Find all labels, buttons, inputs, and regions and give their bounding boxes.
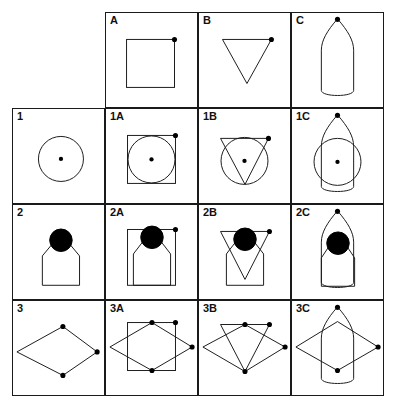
vertex-dot-apex — [335, 17, 340, 22]
vertex-dot-bottom — [335, 368, 340, 373]
rhombus-shape — [296, 322, 378, 371]
bullet-shape — [321, 19, 353, 96]
filled-ball-shape — [141, 226, 164, 249]
vertex-dot-bottom — [242, 369, 247, 374]
filled-ball-shape — [327, 232, 350, 255]
cell-3[interactable]: 3 — [12, 300, 105, 396]
vertex-dot-top-right — [173, 133, 178, 138]
cell-c[interactable]: C — [291, 12, 384, 108]
vertex-dot-apex — [335, 209, 340, 214]
vertex-dot-top-right — [269, 37, 274, 42]
vertex-dot-top-right — [173, 227, 178, 232]
cell-3c[interactable]: 3C — [291, 300, 384, 396]
cell-1b[interactable]: 1B — [198, 108, 291, 204]
vertex-dot-bottom — [60, 373, 65, 378]
inverted-triangle-shape — [222, 39, 271, 83]
inverted-triangle-shape — [221, 325, 270, 372]
vertex-dot-apex — [335, 113, 340, 118]
cell-empty-corner — [12, 12, 105, 108]
filled-ball-shape — [234, 228, 257, 251]
cell-2a[interactable]: 2A — [105, 204, 198, 300]
bullet-shape — [321, 115, 353, 192]
rhombus-shape — [203, 325, 285, 372]
vertex-dot-top-right — [266, 136, 271, 141]
vertex-dot-right — [376, 344, 381, 349]
center-dot — [335, 160, 339, 164]
square-shape — [128, 323, 176, 371]
center-dot — [149, 157, 153, 161]
vertex-dot-triangle-top-right — [267, 322, 272, 327]
square-shape — [127, 39, 175, 87]
cell-3a[interactable]: 3A — [105, 300, 198, 396]
vertex-dot-right — [95, 349, 100, 354]
cell-a[interactable]: A — [105, 12, 198, 108]
vertex-dot-top-right — [267, 229, 272, 234]
vertex-dot-right — [283, 344, 288, 349]
vertex-dot-top — [242, 322, 247, 327]
cell-2b[interactable]: 2B — [198, 204, 291, 300]
rhombus-shape — [110, 323, 192, 371]
center-dot — [59, 157, 63, 161]
cell-b[interactable]: B — [198, 12, 291, 108]
center-dot — [242, 159, 246, 163]
cell-1[interactable]: 1 — [12, 108, 105, 204]
cell-1a[interactable]: 1A — [105, 108, 198, 204]
rhombus-shape — [17, 326, 97, 375]
vertex-dot-right — [190, 344, 195, 349]
cell-3b[interactable]: 3B — [198, 300, 291, 396]
shape-grid: A B C 1 — [12, 12, 384, 396]
vertex-dot-apex — [335, 305, 340, 310]
vertex-dot-bottom — [149, 368, 154, 373]
cell-2[interactable]: 2 — [12, 204, 105, 300]
vertex-dot-top — [60, 324, 65, 329]
vertex-dot-square-top-right — [173, 320, 178, 325]
shape-matrix-sheet: A B C 1 — [0, 0, 396, 408]
filled-ball-shape — [50, 229, 73, 252]
cell-2c[interactable]: 2C — [291, 204, 384, 300]
vertex-dot-top-right — [172, 37, 177, 42]
cell-1c[interactable]: 1C — [291, 108, 384, 204]
vertex-dot-top — [149, 320, 154, 325]
